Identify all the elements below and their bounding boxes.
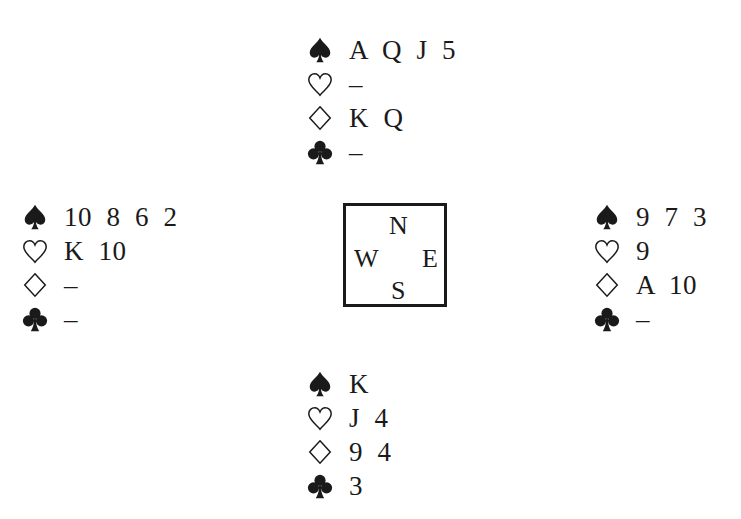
diamond-icon [305, 438, 335, 466]
diamond-icon [305, 104, 335, 132]
west-hearts-row: K 10 [20, 234, 178, 268]
club-icon [305, 472, 335, 500]
east-hearts-row: 9 [592, 234, 707, 268]
east-hearts: 9 [636, 238, 650, 265]
west-diamonds: – [64, 272, 78, 299]
west-diamonds-row: – [20, 268, 178, 302]
east-spades-row: 9 7 3 [592, 200, 707, 234]
diamond-icon [20, 271, 50, 299]
south-hand: K J 4 9 4 3 [305, 367, 392, 503]
heart-icon [20, 237, 50, 265]
north-diamonds-row: K Q [305, 101, 456, 135]
east-diamonds-row: A 10 [592, 268, 707, 302]
east-clubs: – [636, 306, 650, 333]
west-hand: 10 8 6 2 K 10 – – [20, 200, 178, 336]
south-spades-row: K [305, 367, 392, 401]
east-clubs-row: – [592, 302, 707, 336]
heart-icon [305, 404, 335, 432]
west-clubs: – [64, 306, 78, 333]
south-hearts: J 4 [349, 405, 389, 432]
compass-east: E [422, 246, 438, 272]
east-spades: 9 7 3 [636, 204, 707, 231]
south-spades: K [349, 371, 369, 398]
north-hand: A Q J 5 – K Q – [305, 33, 456, 169]
compass-north: N [389, 213, 408, 239]
north-spades: A Q J 5 [349, 37, 456, 64]
spade-icon [305, 36, 335, 64]
north-hearts: – [349, 71, 363, 98]
spade-icon [305, 370, 335, 398]
spade-icon [592, 203, 622, 231]
east-diamonds: A 10 [636, 272, 697, 299]
diamond-icon [592, 271, 622, 299]
south-clubs: 3 [349, 473, 363, 500]
club-icon [20, 305, 50, 333]
north-hearts-row: – [305, 67, 456, 101]
north-spades-row: A Q J 5 [305, 33, 456, 67]
west-spades-row: 10 8 6 2 [20, 200, 178, 234]
club-icon [305, 138, 335, 166]
west-spades: 10 8 6 2 [64, 204, 178, 231]
west-hearts: K 10 [64, 238, 127, 265]
south-diamonds-row: 9 4 [305, 435, 392, 469]
club-icon [592, 305, 622, 333]
compass-south: S [391, 278, 405, 304]
compass-box: N W E S [343, 203, 447, 307]
north-clubs: – [349, 139, 363, 166]
spade-icon [20, 203, 50, 231]
south-hearts-row: J 4 [305, 401, 392, 435]
heart-icon [305, 70, 335, 98]
west-clubs-row: – [20, 302, 178, 336]
east-hand: 9 7 3 9 A 10 – [592, 200, 707, 336]
compass-west: W [354, 246, 379, 272]
south-diamonds: 9 4 [349, 439, 392, 466]
north-clubs-row: – [305, 135, 456, 169]
south-clubs-row: 3 [305, 469, 392, 503]
north-diamonds: K Q [349, 105, 404, 132]
heart-icon [592, 237, 622, 265]
